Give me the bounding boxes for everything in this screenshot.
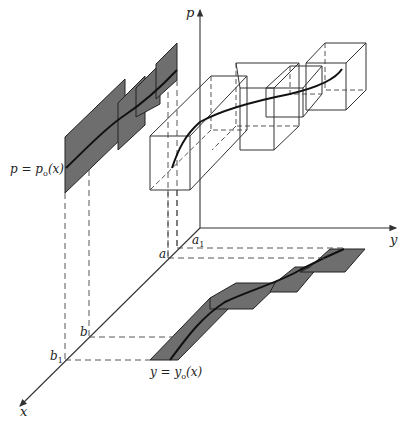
mark-b: b [80,325,88,339]
phase-space-diagram: p y x a a1 b b1 p = po(x) y = yo(x) [0,0,414,426]
box-dropdown-lines [168,190,177,258]
axes [20,10,396,406]
p-axis-label: p [186,5,195,20]
mark-a1: a1 [192,233,204,249]
x-axis [20,228,200,406]
phase-boxes [150,43,366,190]
y-axis-label: y [389,232,398,247]
mark-a: a [159,247,166,261]
trajectory-curve [172,69,342,168]
x-axis-label: x [20,404,28,419]
y-projection-strips [150,249,365,360]
mark-b1: b1 [50,349,63,365]
y-curve-label: y = yo(x) [149,365,203,381]
p-curve-label: p = po(x) [10,162,64,178]
p-projection-strips [65,43,177,193]
